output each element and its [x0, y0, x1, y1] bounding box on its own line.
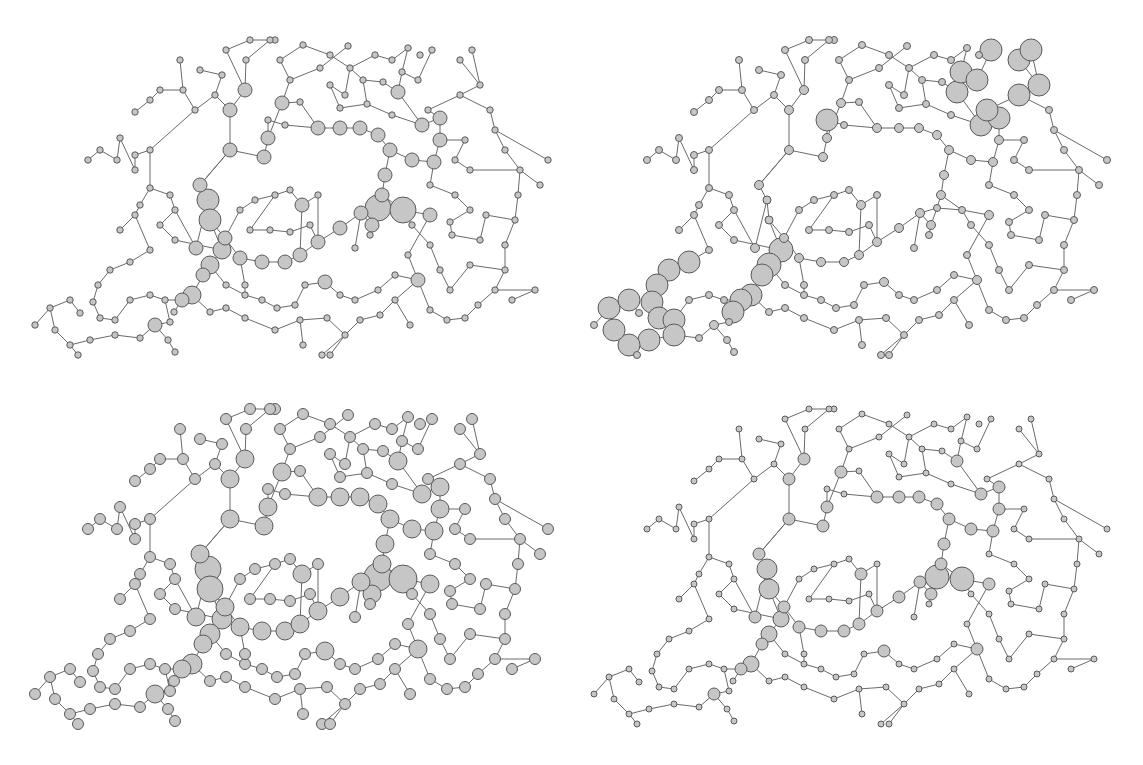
graph-node — [512, 217, 518, 223]
graph-node — [948, 112, 955, 119]
graph-node — [282, 122, 288, 128]
graph-node — [826, 596, 832, 602]
graph-node — [487, 107, 493, 113]
graph-node — [427, 242, 433, 248]
graph-node — [145, 464, 156, 475]
graph-node — [457, 57, 463, 63]
graph-node — [112, 524, 123, 535]
graph-edge — [954, 300, 969, 325]
graph-node — [147, 97, 153, 103]
graph-node — [376, 535, 394, 553]
graph-node — [823, 134, 832, 143]
graph-edge — [834, 689, 859, 699]
graph-edge — [879, 46, 907, 68]
graph-edge — [759, 150, 789, 185]
graph-node — [996, 636, 1002, 642]
graph-node — [785, 146, 794, 155]
graph-node — [706, 292, 713, 299]
graph-node — [47, 305, 53, 311]
graph-edge — [785, 419, 804, 459]
graph-node — [939, 448, 945, 454]
graph-node — [145, 614, 156, 625]
graph-node — [77, 310, 83, 316]
graph-node — [986, 182, 993, 189]
graph-node — [785, 106, 794, 115]
graph-node — [904, 412, 910, 418]
graph-node — [502, 147, 508, 153]
graph-node — [1028, 416, 1034, 422]
graph-node — [802, 426, 808, 432]
graph-node — [826, 227, 833, 234]
graph-node — [1046, 476, 1052, 482]
graph-edge — [345, 68, 350, 95]
graph-node — [636, 679, 642, 685]
graph-node — [275, 424, 286, 435]
graph-node — [235, 574, 246, 585]
graph-edge — [904, 68, 909, 95]
graph-edge — [515, 195, 518, 220]
graph-node — [782, 282, 789, 289]
graph-node — [880, 278, 889, 287]
graph-node — [989, 158, 998, 167]
graph-node — [285, 596, 296, 607]
graph-node — [1076, 167, 1083, 174]
graph-node — [309, 488, 327, 506]
graph-node — [242, 282, 248, 288]
graph-node — [656, 147, 663, 154]
graph-node — [88, 666, 99, 677]
graph-edge — [300, 205, 302, 255]
graph-node — [831, 192, 838, 199]
graph-node — [1104, 157, 1111, 164]
graph-node — [292, 302, 298, 308]
graph-node — [831, 327, 838, 334]
graph-node — [392, 272, 398, 278]
graph-node — [926, 232, 933, 239]
graph-edge — [839, 45, 862, 60]
graph-node — [976, 99, 998, 121]
graph-node — [851, 302, 858, 309]
graph-node — [473, 669, 484, 680]
graph-node — [846, 77, 853, 84]
graph-node — [1034, 302, 1041, 309]
graph-node — [663, 324, 685, 346]
graph-node — [964, 45, 971, 52]
graph-node — [859, 342, 866, 349]
graph-edge — [789, 150, 823, 157]
graph-node — [1011, 157, 1018, 164]
graph-node — [706, 147, 713, 154]
graph-node — [219, 72, 225, 78]
graph-node — [462, 137, 468, 143]
graph-node — [726, 688, 732, 694]
graph-node — [853, 618, 865, 630]
graph-node — [270, 694, 281, 705]
graph-node — [806, 406, 812, 412]
graph-edge — [881, 704, 904, 724]
graph-edge — [804, 318, 834, 330]
graph-edge — [785, 409, 809, 419]
graph-node — [1042, 212, 1049, 219]
graph-edge — [859, 687, 886, 689]
graph-edge — [367, 104, 392, 115]
graph-node — [115, 594, 126, 605]
graph-node — [223, 47, 229, 53]
graph-node — [951, 455, 963, 467]
graph-node — [148, 318, 162, 332]
graph-node — [951, 666, 957, 672]
graph-node — [358, 444, 369, 455]
graph-node — [465, 629, 476, 640]
graph-node — [247, 37, 253, 43]
graph-edge — [1011, 604, 1039, 609]
graph-node — [906, 65, 913, 72]
graph-edge — [226, 40, 250, 50]
graph-edge — [922, 449, 926, 473]
graph-node — [976, 52, 983, 59]
graph-node — [117, 135, 123, 141]
graph-node — [626, 666, 632, 672]
graph-node — [896, 292, 903, 299]
graph-node — [295, 466, 306, 477]
graph-node — [242, 315, 248, 321]
graph-node — [455, 459, 466, 470]
graph-node — [241, 424, 252, 435]
graph-node — [492, 127, 498, 133]
graph-node — [975, 488, 987, 500]
